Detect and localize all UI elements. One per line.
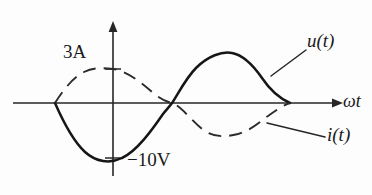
horizontal-axis-arrowhead [332, 99, 343, 108]
vertical-axis-arrowhead [109, 21, 118, 32]
current-curve-label: i(t) [327, 125, 350, 144]
horizontal-axis-label: ωt [343, 92, 361, 110]
voltage-curve-label: u(t) [307, 31, 334, 50]
current-amplitude-label: 3A [63, 42, 86, 61]
current-label-leader-line [267, 123, 325, 137]
waveform-figure: 3A −10V u(t) i(t) ωt [0, 0, 372, 195]
voltage-label-leader-line [271, 50, 306, 76]
voltage-amplitude-label: −10V [127, 150, 170, 169]
